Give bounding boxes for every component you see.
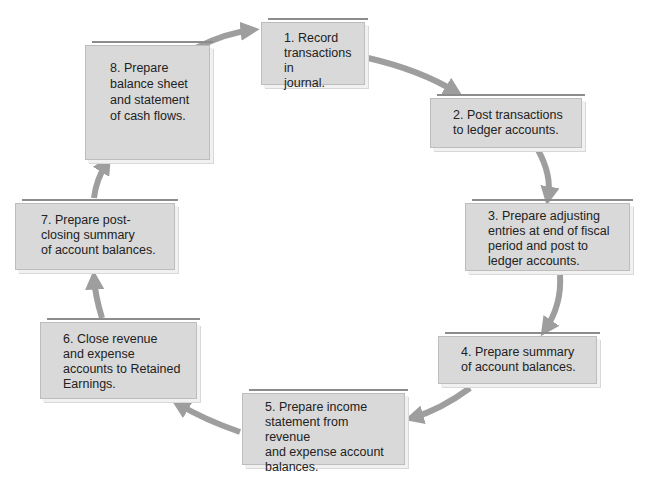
step-6-line: Earnings. (63, 377, 186, 392)
step-6-line: and expense (63, 347, 186, 362)
step-2-post-transactions: 2. Post transactions to ledger accounts. (430, 98, 582, 148)
step-8-line: balance sheet (110, 76, 199, 92)
step-7-line: of account balances. (41, 243, 164, 258)
arrow-4-to-5 (412, 388, 470, 418)
arrow-1-to-2 (368, 58, 456, 92)
step-6-line: 6. Close revenue (63, 332, 186, 347)
step-8-line: 8. Prepare (110, 60, 199, 76)
step-6-line: accounts to Retained (63, 362, 186, 377)
step-1-line: 1. Record (284, 31, 354, 46)
step-7-line: 7. Prepare post- (41, 213, 164, 228)
step-1-line: journal. (284, 76, 354, 91)
step-5-income-statement: 5. Prepare income statement from revenue… (242, 393, 405, 465)
arrow-5-to-6 (178, 404, 240, 432)
step-3-adjusting-entries: 3. Prepare adjusting entries at end of f… (465, 203, 630, 271)
step-3-line: ledger accounts. (488, 254, 619, 269)
step-7-line: closing summary (41, 228, 164, 243)
step-8-line: and statement (110, 92, 199, 108)
step-4-line: 4. Prepare summary (461, 345, 586, 360)
step-3-line: 3. Prepare adjusting (488, 209, 619, 224)
arrow-2-to-3 (538, 150, 549, 198)
step-1-line: transactions in (284, 46, 354, 76)
step-1-record-transactions: 1. Record transactions in journal. (261, 22, 365, 85)
step-8-balance-sheet-cash-flows: 8. Prepare balance sheet and statement o… (85, 45, 210, 160)
step-5-line: 5. Prepare income (265, 400, 394, 415)
step-8-line: of cash flows. (110, 108, 199, 124)
step-3-line: period and post to (488, 239, 619, 254)
arrow-6-to-7 (94, 278, 102, 318)
step-7-post-closing-summary: 7. Prepare post- closing summary of acco… (15, 203, 175, 270)
step-3-line: entries at end of fiscal (488, 224, 619, 239)
step-5-line: balances. (265, 460, 394, 475)
step-4-line: of account balances. (461, 360, 586, 375)
step-2-line: 2. Post transactions (453, 108, 571, 123)
arrow-7-to-8 (94, 162, 107, 198)
arrow-3-to-4 (545, 275, 560, 330)
step-4-summary-balances: 4. Prepare summary of account balances. (438, 336, 597, 384)
step-2-line: to ledger accounts. (453, 123, 571, 138)
step-5-line: and expense account (265, 445, 394, 460)
step-6-close-accounts: 6. Close revenue and expense accounts to… (40, 322, 197, 399)
step-5-line: statement from revenue (265, 415, 394, 445)
